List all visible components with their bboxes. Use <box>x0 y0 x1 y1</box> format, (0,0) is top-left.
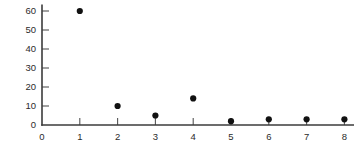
y-tick-label-20: 20 <box>25 81 36 92</box>
y-axis-ticks <box>42 11 49 106</box>
data-point-6 <box>266 116 272 122</box>
x-tick-label-4: 4 <box>191 131 196 142</box>
data-point-4 <box>190 95 196 101</box>
x-axis-tick-labels: 012345678 <box>39 131 347 142</box>
data-point-group <box>77 8 348 124</box>
y-tick-label-10: 10 <box>25 100 36 111</box>
data-point-1 <box>77 8 83 14</box>
y-tick-label-60: 60 <box>25 5 36 16</box>
data-point-5 <box>228 118 234 124</box>
data-point-3 <box>152 112 158 118</box>
y-tick-label-30: 30 <box>25 62 36 73</box>
scatter-chart: 0102030405060 012345678 <box>0 0 354 149</box>
y-tick-label-50: 50 <box>25 24 36 35</box>
y-tick-label-0: 0 <box>31 119 36 130</box>
x-tick-label-2: 2 <box>115 131 120 142</box>
plot-area: 0102030405060 012345678 <box>0 0 354 149</box>
x-tick-label-1: 1 <box>77 131 82 142</box>
x-tick-label-0: 0 <box>39 131 44 142</box>
data-point-8 <box>341 116 347 122</box>
data-point-2 <box>115 103 121 109</box>
x-tick-label-3: 3 <box>153 131 158 142</box>
x-tick-label-7: 7 <box>304 131 309 142</box>
x-tick-label-8: 8 <box>342 131 347 142</box>
x-tick-label-6: 6 <box>266 131 271 142</box>
data-point-7 <box>304 116 310 122</box>
y-tick-label-40: 40 <box>25 43 36 54</box>
y-axis-tick-labels: 0102030405060 <box>25 5 36 130</box>
x-tick-label-5: 5 <box>228 131 233 142</box>
